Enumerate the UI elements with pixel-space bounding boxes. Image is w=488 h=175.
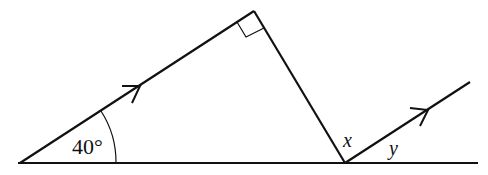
leg-side [254, 11, 345, 163]
angle-label-40: 40° [72, 134, 103, 159]
angle-arc-40 [101, 111, 116, 163]
parallel-ray [345, 82, 470, 163]
angle-label-x: x [342, 129, 352, 151]
geometry-diagram: 40° x y [0, 0, 488, 175]
parallel-arrow-2 [410, 108, 428, 126]
angle-label-y: y [387, 137, 398, 160]
right-angle-marker [237, 22, 264, 37]
